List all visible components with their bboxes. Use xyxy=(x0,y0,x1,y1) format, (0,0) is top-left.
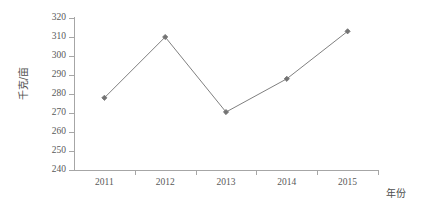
series-line xyxy=(104,31,347,112)
line-chart: 千克/亩 240250260270280290300310320 2011201… xyxy=(0,0,425,205)
data-series xyxy=(0,0,425,205)
x-axis-title: 年份 xyxy=(386,185,406,200)
